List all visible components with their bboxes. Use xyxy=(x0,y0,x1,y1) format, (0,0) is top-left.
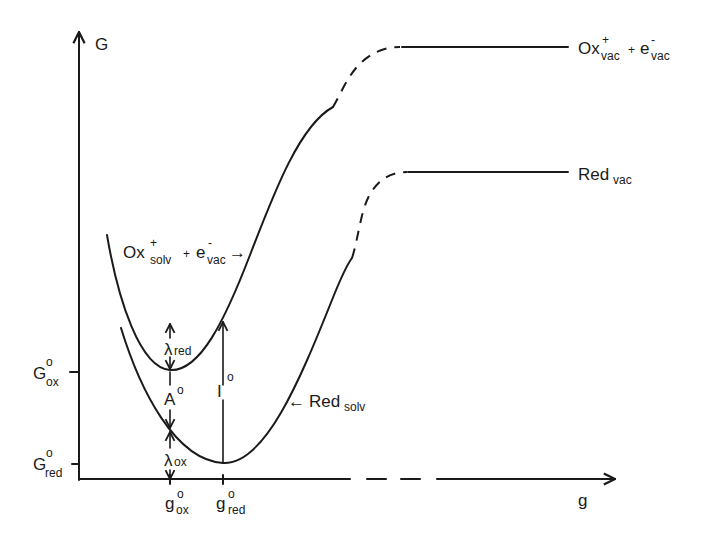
label-ox-vac: Ox + vac + e - vac xyxy=(578,33,670,63)
x-tick-label-g-red: g o red xyxy=(216,487,245,517)
svg-text:solv: solv xyxy=(150,253,171,267)
svg-text:e: e xyxy=(640,39,649,58)
marcus-free-energy-diagram: G G o ox G o red g g o ox g o red xyxy=(0,0,719,539)
svg-text:Ox: Ox xyxy=(578,39,600,58)
svg-text:-: - xyxy=(208,236,212,250)
svg-text:o: o xyxy=(227,370,234,384)
label-red-vac: Red vac xyxy=(578,165,632,187)
svg-text:+: + xyxy=(602,33,609,47)
y-axis-label: G xyxy=(95,35,108,54)
svg-text:red: red xyxy=(45,466,62,480)
label-red-solv: ← Red solv xyxy=(288,392,365,414)
x-axis: g xyxy=(79,475,615,510)
label-lambda-red: λ red xyxy=(164,340,191,359)
svg-text:Red: Red xyxy=(578,165,609,184)
svg-text:A: A xyxy=(164,390,176,409)
svg-text:ox: ox xyxy=(46,375,59,389)
svg-text:ox: ox xyxy=(174,455,187,469)
svg-text:o: o xyxy=(228,487,235,501)
y-axis: G xyxy=(70,32,108,480)
svg-text:o: o xyxy=(177,383,184,397)
y-tick-label-g-red: G o red xyxy=(33,446,62,480)
svg-text:g: g xyxy=(216,494,225,513)
svg-text:λ: λ xyxy=(164,451,173,470)
x-axis-label: g xyxy=(578,491,587,510)
svg-text:vac: vac xyxy=(207,253,226,267)
svg-text:vac: vac xyxy=(651,49,670,63)
x-tick-label-g-ox: g o ox xyxy=(165,487,189,517)
svg-text:red: red xyxy=(228,503,245,517)
svg-text:Red: Red xyxy=(309,392,340,411)
curve-ox-solv xyxy=(107,47,568,370)
annotation-i0: I o xyxy=(217,322,234,463)
svg-text:λ: λ xyxy=(164,340,173,359)
svg-text:+: + xyxy=(150,236,157,250)
svg-text:+: + xyxy=(628,43,635,57)
curve-red-solv xyxy=(121,172,568,463)
label-lambda-ox: λ ox xyxy=(164,451,187,470)
svg-text:Ox: Ox xyxy=(123,243,145,262)
svg-text:o: o xyxy=(46,446,53,460)
svg-text:solv: solv xyxy=(344,400,365,414)
label-a0: A o xyxy=(164,383,184,409)
svg-text:red: red xyxy=(174,344,191,358)
y-tick-label-g-ox: G o ox xyxy=(33,355,59,389)
svg-text:+: + xyxy=(183,247,190,261)
svg-text:-: - xyxy=(651,33,655,47)
svg-text:←: ← xyxy=(288,392,305,411)
svg-text:→: → xyxy=(229,243,246,262)
label-ox-solv: Ox + solv + e - vac → xyxy=(123,236,246,267)
svg-text:g: g xyxy=(165,494,174,513)
svg-text:ox: ox xyxy=(176,503,189,517)
svg-text:o: o xyxy=(177,487,184,501)
svg-text:G: G xyxy=(33,364,46,383)
svg-text:I: I xyxy=(217,382,222,401)
svg-text:e: e xyxy=(196,243,205,262)
svg-text:vac: vac xyxy=(613,173,632,187)
svg-text:o: o xyxy=(46,355,53,369)
svg-text:vac: vac xyxy=(601,49,620,63)
